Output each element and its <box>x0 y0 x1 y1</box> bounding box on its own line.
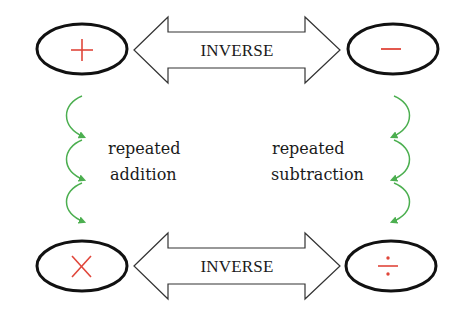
curved-arrow-icon <box>392 96 410 137</box>
multiplication-node <box>37 241 127 291</box>
repeated-subtraction-line2: subtraction <box>271 165 364 184</box>
curved-arrow-icon <box>392 183 410 222</box>
repeated-subtraction-label: repeated subtraction <box>271 139 364 184</box>
repeated-addition-line2: addition <box>110 165 177 184</box>
curved-arrow-icon <box>67 96 85 137</box>
repeated-addition-label: repeated addition <box>108 139 181 184</box>
operations-diagram: INVERSE repeated addition repeated subtr… <box>0 0 459 315</box>
curved-arrow-icon <box>67 183 85 222</box>
addition-node <box>37 24 127 74</box>
subtraction-node <box>348 24 438 74</box>
repeated-addition-arrows <box>67 96 85 222</box>
bottom-inverse-label: INVERSE <box>200 257 273 276</box>
top-inverse-arrow: INVERSE <box>134 17 340 83</box>
curved-arrow-icon <box>392 140 410 180</box>
repeated-subtraction-arrows <box>392 96 410 222</box>
repeated-subtraction-line1: repeated <box>272 139 345 158</box>
curved-arrow-icon <box>67 140 85 180</box>
division-node <box>346 241 436 291</box>
repeated-addition-line1: repeated <box>108 139 181 158</box>
top-inverse-label: INVERSE <box>200 41 273 60</box>
bottom-inverse-arrow: INVERSE <box>134 233 340 299</box>
